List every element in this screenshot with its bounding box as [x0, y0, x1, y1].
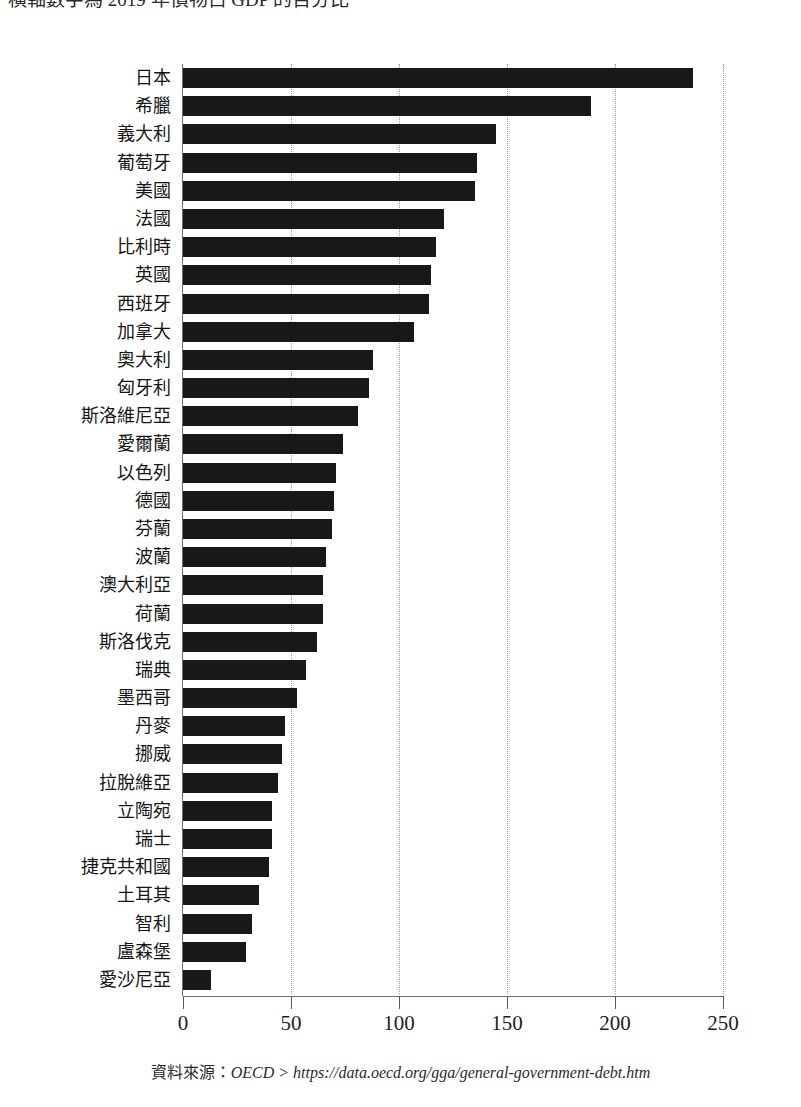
- bar-row[interactable]: 愛沙尼亞: [183, 970, 723, 990]
- bar-row[interactable]: 希臘: [183, 96, 723, 116]
- category-label: 希臘: [135, 96, 171, 116]
- category-label: 法國: [135, 209, 171, 229]
- bar[interactable]: [183, 744, 282, 764]
- bar[interactable]: [183, 124, 496, 144]
- bar[interactable]: [183, 660, 306, 680]
- bar-row[interactable]: 加拿大: [183, 322, 723, 342]
- bar[interactable]: [183, 547, 326, 567]
- bar-row[interactable]: 土耳其: [183, 885, 723, 905]
- bar-row[interactable]: 捷克共和國: [183, 857, 723, 877]
- bar[interactable]: [183, 96, 591, 116]
- category-label: 芬蘭: [135, 519, 171, 539]
- bar-row[interactable]: 智利: [183, 914, 723, 934]
- category-label: 立陶宛: [117, 801, 171, 821]
- x-tick-150: [507, 996, 508, 1009]
- bar-row[interactable]: 墨西哥: [183, 688, 723, 708]
- category-label: 挪威: [135, 744, 171, 764]
- bar-row[interactable]: 愛爾蘭: [183, 434, 723, 454]
- category-label: 波蘭: [135, 547, 171, 567]
- bar-row[interactable]: 匈牙利: [183, 378, 723, 398]
- bar-row[interactable]: 德國: [183, 491, 723, 511]
- bar-row[interactable]: 美國: [183, 181, 723, 201]
- bar-row[interactable]: 澳大利亞: [183, 575, 723, 595]
- x-tick-200: [615, 996, 616, 1009]
- bar[interactable]: [183, 688, 297, 708]
- gridline-250: [723, 64, 724, 994]
- bar-row[interactable]: 拉脫維亞: [183, 773, 723, 793]
- bar[interactable]: [183, 491, 334, 511]
- bar[interactable]: [183, 575, 323, 595]
- bar-row[interactable]: 立陶宛: [183, 801, 723, 821]
- category-label: 土耳其: [117, 885, 171, 905]
- bar[interactable]: [183, 153, 477, 173]
- bar-row[interactable]: 義大利: [183, 124, 723, 144]
- bar-row[interactable]: 芬蘭: [183, 519, 723, 539]
- category-label: 愛沙尼亞: [99, 970, 171, 990]
- category-label: 德國: [135, 491, 171, 511]
- category-label: 瑞士: [135, 829, 171, 849]
- category-label: 拉脫維亞: [99, 773, 171, 793]
- bar[interactable]: [183, 885, 259, 905]
- bar-row[interactable]: 以色列: [183, 463, 723, 483]
- x-tick-100: [399, 996, 400, 1009]
- bar-row[interactable]: 丹麥: [183, 716, 723, 736]
- bar-row[interactable]: 葡萄牙: [183, 153, 723, 173]
- bar[interactable]: [183, 434, 343, 454]
- bar-row[interactable]: 斯洛維尼亞: [183, 406, 723, 426]
- x-tick-250: [723, 996, 724, 1009]
- bar[interactable]: [183, 829, 272, 849]
- bar[interactable]: [183, 406, 358, 426]
- category-label: 奧大利: [117, 350, 171, 370]
- bar-row[interactable]: 比利時: [183, 237, 723, 257]
- bar[interactable]: [183, 378, 369, 398]
- bar-row[interactable]: 盧森堡: [183, 942, 723, 962]
- bar[interactable]: [183, 181, 475, 201]
- plot-area: 日本希臘義大利葡萄牙美國法國比利時英國西班牙加拿大奧大利匈牙利斯洛維尼亞愛爾蘭以…: [183, 64, 723, 994]
- bar[interactable]: [183, 632, 317, 652]
- bar[interactable]: [183, 68, 693, 88]
- category-label: 澳大利亞: [99, 575, 171, 595]
- bar[interactable]: [183, 322, 414, 342]
- bar-row[interactable]: 奧大利: [183, 350, 723, 370]
- category-label: 加拿大: [117, 322, 171, 342]
- source-url: OECD > https://data.oecd.org/gga/general…: [231, 1064, 650, 1081]
- category-label: 以色列: [117, 463, 171, 483]
- bar-row[interactable]: 英國: [183, 265, 723, 285]
- bar[interactable]: [183, 519, 332, 539]
- bar-row[interactable]: 西班牙: [183, 294, 723, 314]
- bar[interactable]: [183, 350, 373, 370]
- bar[interactable]: [183, 294, 429, 314]
- category-label: 斯洛伐克: [99, 632, 171, 652]
- bar-row[interactable]: 日本: [183, 68, 723, 88]
- bar[interactable]: [183, 773, 278, 793]
- category-label: 盧森堡: [117, 942, 171, 962]
- x-tick-label-100: 100: [383, 1011, 415, 1035]
- category-label: 英國: [135, 265, 171, 285]
- bar-row[interactable]: 瑞士: [183, 829, 723, 849]
- bar[interactable]: [183, 604, 323, 624]
- bar-row[interactable]: 挪威: [183, 744, 723, 764]
- bar[interactable]: [183, 265, 431, 285]
- bar-row[interactable]: 瑞典: [183, 660, 723, 680]
- bar[interactable]: [183, 716, 285, 736]
- bar-row[interactable]: 斯洛伐克: [183, 632, 723, 652]
- bar-row[interactable]: 荷蘭: [183, 604, 723, 624]
- bar[interactable]: [183, 914, 252, 934]
- x-axis-line: [183, 996, 723, 997]
- bar[interactable]: [183, 463, 336, 483]
- bar[interactable]: [183, 970, 211, 990]
- bar[interactable]: [183, 801, 272, 821]
- bar[interactable]: [183, 942, 246, 962]
- category-label: 匈牙利: [117, 378, 171, 398]
- bar[interactable]: [183, 209, 444, 229]
- bar[interactable]: [183, 237, 436, 257]
- x-tick-label-250: 250: [707, 1011, 739, 1035]
- category-label: 西班牙: [117, 294, 171, 314]
- source-note: 資料來源：OECD > https://data.oecd.org/gga/ge…: [0, 1062, 801, 1084]
- bar[interactable]: [183, 857, 269, 877]
- bar-row[interactable]: 法國: [183, 209, 723, 229]
- category-label: 義大利: [117, 124, 171, 144]
- x-tick-0: [183, 996, 184, 1009]
- bar-row[interactable]: 波蘭: [183, 547, 723, 567]
- x-tick-label-0: 0: [178, 1011, 189, 1035]
